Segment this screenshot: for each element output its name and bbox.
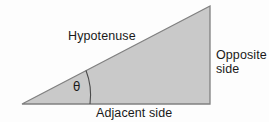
theta-angle-label: θ [73, 81, 80, 94]
opposite-side-label: Opposite side [216, 49, 266, 76]
hypotenuse-label: Hypotenuse [68, 30, 136, 43]
right-triangle-shape [22, 6, 210, 104]
adjacent-side-label: Adjacent side [96, 107, 172, 120]
opposite-side-label-line1: Opposite [216, 48, 267, 62]
triangle-diagram: Hypotenuse Adjacent side Opposite side θ [0, 0, 269, 122]
opposite-side-label-line2: side [216, 62, 239, 76]
